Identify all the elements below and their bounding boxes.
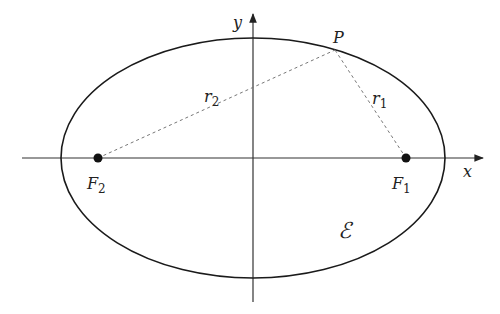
- ellipse-diagram: y x P F1 F2 r1 r2 ℰ: [0, 0, 500, 314]
- point-p-label: P: [332, 28, 344, 47]
- focus-f2-letter: F: [86, 174, 99, 193]
- x-axis-label: x: [463, 162, 472, 181]
- focus-f1-subscript: 1: [403, 182, 411, 196]
- focus-f2-subscript: 2: [98, 182, 106, 196]
- focus-f1-dot: [402, 154, 411, 163]
- focus-f1-label: F1: [391, 174, 411, 196]
- radius-r1-subscript: 1: [380, 97, 388, 111]
- focus-f2-label: F2: [86, 174, 106, 196]
- radius-r1-line: [335, 50, 406, 158]
- radius-r1-label: r1: [372, 89, 387, 111]
- focus-f1-letter: F: [391, 174, 404, 193]
- focus-f2-dot: [94, 154, 103, 163]
- ellipse-label: ℰ: [338, 218, 354, 243]
- radius-r2-label: r2: [204, 87, 219, 109]
- y-axis-label: y: [232, 13, 243, 32]
- radius-r2-subscript: 2: [212, 95, 220, 109]
